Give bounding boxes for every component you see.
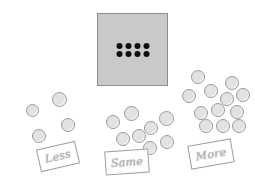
counter-chip[interactable] — [144, 121, 158, 135]
counter-chip[interactable] — [26, 104, 39, 117]
counter-chip[interactable] — [191, 70, 205, 84]
reference-dot — [116, 51, 122, 57]
reference-dot — [143, 43, 149, 49]
worksheet-canvas: Less Same More — [0, 0, 255, 189]
counter-chip[interactable] — [132, 129, 146, 143]
counter-chip[interactable] — [211, 103, 225, 117]
counter-chip[interactable] — [61, 118, 75, 132]
reference-dot — [143, 51, 149, 57]
reference-dot-grid — [116, 43, 149, 57]
label-card-same[interactable]: Same — [104, 148, 150, 175]
reference-dot-card[interactable] — [97, 13, 168, 86]
counter-chip[interactable] — [116, 132, 130, 146]
counter-chip[interactable] — [194, 106, 208, 120]
counter-chip[interactable] — [236, 88, 250, 102]
counter-chip[interactable] — [216, 119, 230, 133]
counter-chip[interactable] — [230, 105, 244, 119]
label-text-more: More — [195, 145, 228, 163]
counter-chip[interactable] — [160, 135, 174, 149]
label-card-more[interactable]: More — [187, 138, 234, 169]
reference-dot — [116, 43, 122, 49]
counter-chip[interactable] — [159, 111, 174, 126]
reference-dot — [134, 43, 140, 49]
reference-dot — [125, 51, 131, 57]
label-card-less[interactable]: Less — [36, 141, 80, 172]
reference-dot — [134, 51, 140, 57]
label-text-same: Same — [110, 154, 143, 169]
label-text-less: Less — [44, 147, 73, 166]
counter-chip[interactable] — [124, 106, 139, 121]
counter-chip[interactable] — [204, 84, 218, 98]
counter-chip[interactable] — [225, 76, 239, 90]
counter-chip[interactable] — [199, 119, 213, 133]
counter-chip[interactable] — [182, 89, 196, 103]
counter-chip[interactable] — [32, 129, 46, 143]
counter-chip[interactable] — [52, 92, 67, 107]
reference-dot — [125, 43, 131, 49]
counter-chip[interactable] — [106, 115, 120, 129]
counter-chip[interactable] — [232, 119, 246, 133]
